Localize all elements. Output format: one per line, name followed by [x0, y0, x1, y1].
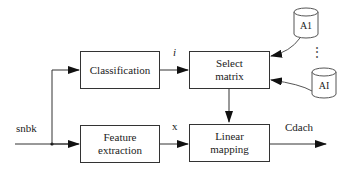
input-signal-label: snbk — [16, 122, 37, 134]
feature-vector-label: x — [172, 120, 178, 132]
linear-mapping-block: Linear mapping — [189, 124, 270, 162]
select-matrix-label-1: Select — [216, 57, 243, 70]
feature-extraction-label-2: extraction — [98, 144, 142, 157]
storage-top-label: A1 — [293, 20, 319, 31]
output-signal-label: Cdach — [285, 121, 313, 133]
arrow-to-classification — [52, 70, 79, 144]
feature-extraction-label-1: Feature — [104, 131, 137, 144]
classification-block: Classification — [80, 51, 160, 89]
class-index-label: i — [173, 46, 176, 58]
arrow-storage-bottom — [271, 80, 312, 91]
linear-mapping-label-1: Linear — [215, 130, 244, 143]
arrow-storage-top — [271, 38, 300, 56]
feature-extraction-block: Feature extraction — [80, 125, 160, 163]
storage-bottom-label: AI — [311, 80, 337, 91]
classification-label: Classification — [90, 64, 151, 77]
select-matrix-label-2: matrix — [215, 70, 244, 83]
storage-ellipsis: ⋮ — [310, 44, 324, 61]
linear-mapping-label-2: mapping — [210, 143, 249, 156]
select-matrix-block: Select matrix — [189, 51, 270, 89]
